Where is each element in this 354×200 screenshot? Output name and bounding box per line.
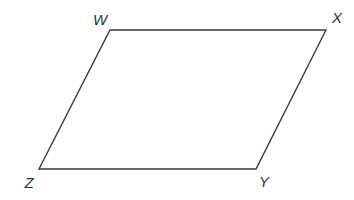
- vertex-label-z: Z: [23, 174, 34, 191]
- parallelogram-diagram: W X Y Z: [0, 0, 354, 200]
- vertex-label-x: X: [331, 9, 343, 26]
- parallelogram-wxyz: [39, 30, 326, 169]
- vertex-label-y: Y: [259, 173, 270, 190]
- vertex-label-w: W: [93, 11, 109, 28]
